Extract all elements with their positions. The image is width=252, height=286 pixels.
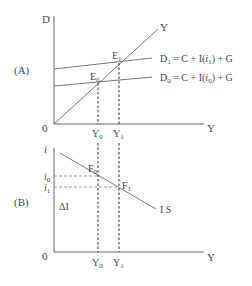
y1-tick-label-a: Y1 [113, 128, 124, 141]
i-axis-label: i [44, 143, 47, 155]
d0-line [54, 77, 152, 86]
origin-label-a: 0 [42, 122, 48, 134]
d1-label: D1 = C + I(i1) + G [160, 53, 233, 66]
delta-i-label: ΔI [59, 201, 69, 212]
point-f0-label: F0 [88, 163, 98, 176]
is-curve-label: I S [160, 204, 171, 215]
line-45-label: Y [160, 21, 168, 33]
keynesian-cross-is-diagram: (A) D Y 0 Y D1 = C + I(i1) + G D0 = C + … [0, 0, 252, 286]
panel-b: (B) i Y 0 i0 i1 I S ΔI F0 F1 Y0 Y1 [14, 143, 215, 270]
d1-line [54, 58, 152, 69]
y1-tick-label-b: Y1 [113, 257, 124, 270]
x-axis-label-a: Y [207, 122, 215, 134]
y0-tick-label-b: Y0 [92, 257, 103, 270]
origin-label-b: 0 [42, 250, 48, 262]
panel-a: (A) D Y 0 Y D1 = C + I(i1) + G D0 = C + … [14, 13, 233, 141]
point-e1-label: E1 [112, 50, 122, 63]
point-f1-label: F1 [122, 180, 132, 193]
y0-tick-label-a: Y0 [92, 128, 103, 141]
line-45-degree [54, 29, 158, 124]
panel-b-tag: (B) [14, 196, 29, 209]
panel-a-tag: (A) [14, 64, 30, 77]
d0-label: D0 = C + I(i0) + G [160, 72, 233, 85]
x-axis-label-b: Y [207, 251, 215, 263]
d-axis-label: D [42, 13, 50, 25]
is-curve [60, 153, 156, 209]
